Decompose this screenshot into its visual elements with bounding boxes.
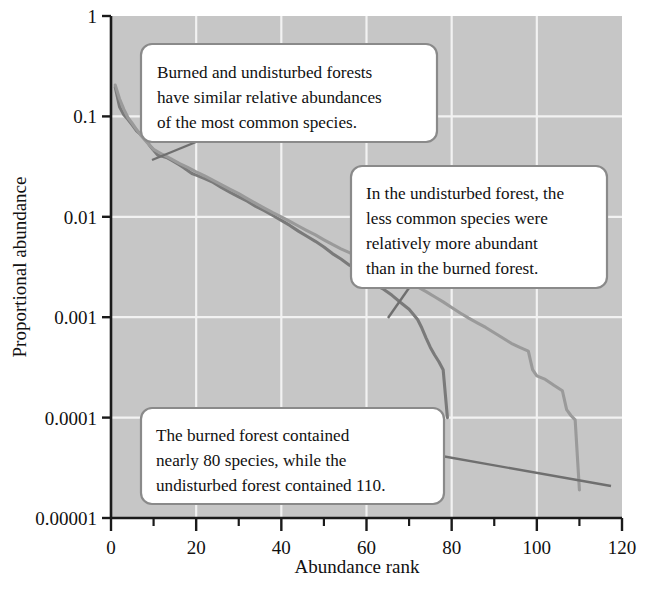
y-axis-ticks: 10.10.010.0010.00010.00001 bbox=[35, 6, 111, 529]
callout-species-counts: The burned forest containednearly 80 spe… bbox=[141, 408, 444, 504]
callout-line: less common species were bbox=[366, 209, 548, 228]
x-tick-label: 0 bbox=[106, 537, 116, 558]
x-tick-label: 60 bbox=[357, 537, 376, 558]
x-axis-title: Abundance rank bbox=[294, 556, 420, 577]
x-tick-label: 120 bbox=[608, 537, 637, 558]
callout-line: of the most common species. bbox=[157, 113, 357, 132]
callout-line: The burned forest contained bbox=[156, 426, 350, 445]
callout-less-common-species: In the undisturbed forest, theless commo… bbox=[351, 166, 607, 288]
x-tick-label: 40 bbox=[272, 537, 291, 558]
callout-line: have similar relative abundances bbox=[157, 88, 382, 107]
callout-line: relatively more abundant bbox=[366, 234, 538, 253]
y-tick-label: 0.1 bbox=[73, 106, 97, 127]
callout-line: nearly 80 species, while the bbox=[156, 451, 347, 470]
y-tick-label: 0.01 bbox=[64, 207, 97, 228]
callout-line: undisturbed forest contained 110. bbox=[156, 476, 385, 495]
x-tick-label: 100 bbox=[523, 537, 552, 558]
y-tick-label: 1 bbox=[88, 6, 98, 27]
x-axis-ticks: 020406080100120 bbox=[106, 518, 636, 558]
callout-line: Burned and undisturbed forests bbox=[157, 63, 373, 82]
x-tick-label: 80 bbox=[442, 537, 461, 558]
y-tick-label: 0.00001 bbox=[35, 508, 97, 529]
callout-common-species: Burned and undisturbed forestshave simil… bbox=[141, 44, 437, 142]
x-tick-label: 20 bbox=[187, 537, 206, 558]
y-tick-label: 0.001 bbox=[54, 307, 97, 328]
y-axis-title: Proportional abundance bbox=[9, 177, 30, 358]
abundance-rank-chart: 10.10.010.0010.00010.00001 0204060801001… bbox=[0, 0, 645, 590]
y-tick-label: 0.0001 bbox=[45, 408, 97, 429]
callout-line: than in the burned forest. bbox=[366, 259, 538, 278]
callout-line: In the undisturbed forest, the bbox=[366, 184, 564, 203]
